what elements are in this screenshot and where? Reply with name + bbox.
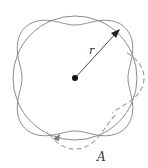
radius-label: r <box>89 44 94 57</box>
center-dot <box>72 75 78 81</box>
radius-line <box>75 32 117 78</box>
orbit-diagram <box>0 0 148 168</box>
point-a-label: A <box>97 150 106 164</box>
